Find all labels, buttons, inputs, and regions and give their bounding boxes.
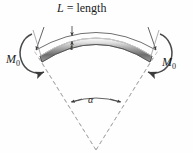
angle-arrow-right	[110, 99, 121, 102]
length-text: = length	[64, 1, 107, 15]
radius-lines	[33, 49, 159, 150]
curved-beam-figure: L = length M0 M0 t α	[0, 0, 193, 153]
angle-arrow-left	[71, 99, 82, 102]
moment-right-label: M0	[162, 55, 176, 71]
moment-left-subscript: 0	[16, 59, 20, 68]
length-label: L = length	[57, 1, 106, 16]
moment-left-label: M0	[6, 52, 20, 68]
beam-body	[40, 38, 152, 62]
length-symbol: L	[57, 1, 64, 15]
moment-right-symbol: M	[162, 55, 172, 69]
curved-beam	[40, 38, 152, 62]
radius-line-left-outer	[33, 49, 96, 150]
figure-canvas	[0, 0, 193, 153]
length-extension-left	[33, 30, 42, 59]
angle-dimension	[71, 98, 121, 102]
thickness-label: t	[70, 42, 73, 52]
moment-left-symbol: M	[6, 52, 16, 66]
moment-right-subscript: 0	[172, 62, 176, 71]
radius-line-right-outer	[96, 49, 159, 150]
angle-label: α	[88, 94, 93, 105]
length-extension-right	[150, 30, 159, 59]
